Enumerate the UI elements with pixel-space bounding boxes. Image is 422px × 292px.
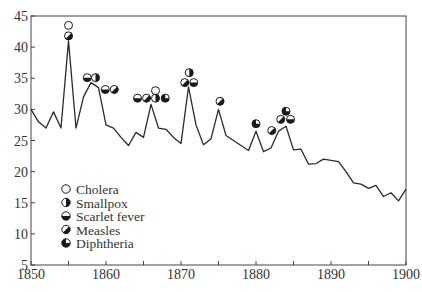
y-tick-label: 35 [14, 71, 28, 86]
measles-icon [110, 85, 118, 93]
diphtheria-icon [252, 120, 260, 128]
measles-icon [65, 32, 73, 40]
scarlet-icon [134, 94, 142, 102]
y-tick-label: 10 [14, 227, 28, 242]
y-tick-label: 25 [14, 134, 28, 149]
y-tick-label: 20 [14, 165, 28, 180]
smallpox-icon [185, 69, 193, 77]
x-tick-label: 1850 [17, 267, 45, 282]
y-tick-label: 30 [14, 102, 28, 117]
x-axis: 185018601870188018901900 [17, 261, 420, 282]
x-tick-label: 1880 [242, 267, 270, 282]
x-tick-label: 1870 [167, 267, 195, 282]
y-tick-label: 40 [14, 40, 28, 55]
smallpox-icon [62, 198, 70, 206]
y-tick-label: 45 [14, 9, 28, 24]
measles-icon [268, 127, 276, 135]
measles-icon [143, 94, 151, 102]
legend: CholeraSmallpoxScarlet feverMeaslesDipht… [62, 182, 145, 251]
measles-icon [216, 97, 224, 105]
diphtheria-icon [282, 107, 290, 115]
smallpox-icon [92, 74, 100, 82]
x-tick-label: 1890 [317, 267, 345, 282]
x-tick-label: 1900 [392, 267, 420, 282]
scarlet-icon [83, 74, 91, 82]
legend-label: Diphtheria [76, 236, 134, 251]
cholera-icon [62, 185, 70, 193]
scarlet-icon [101, 85, 109, 93]
scarlet-icon [62, 212, 70, 220]
x-tick-label: 1860 [92, 267, 120, 282]
y-axis: 51015202530354045 [14, 9, 35, 273]
disease-markers [65, 21, 295, 134]
scarlet-icon [287, 115, 295, 123]
cholera-icon [152, 87, 160, 95]
diphtheria-icon [62, 239, 70, 247]
measles-icon [277, 115, 285, 123]
diphtheria-icon [161, 94, 169, 102]
scarlet-icon [190, 79, 198, 87]
y-tick-label: 15 [14, 196, 28, 211]
smallpox-icon [152, 94, 160, 102]
legend-item-diphtheria: Diphtheria [62, 236, 134, 251]
data-line [31, 41, 406, 201]
epidemic-line-chart: 51015202530354045 1850186018701880189019… [0, 0, 422, 292]
measles-icon [181, 79, 189, 87]
measles-icon [62, 225, 70, 233]
cholera-icon [65, 21, 73, 29]
